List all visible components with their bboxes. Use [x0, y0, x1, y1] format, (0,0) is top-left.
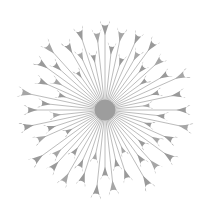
graph-leaf-node [49, 149, 61, 161]
graph-leaf-node [32, 136, 46, 146]
graph-edge [108, 75, 183, 108]
radial-network-canvas [0, 0, 211, 219]
graph-leaf-node [124, 169, 133, 183]
graph-leaf-node [154, 53, 167, 65]
graph-leaf-node [142, 101, 153, 108]
graph-leaf-node [150, 160, 163, 174]
graph-leaf-node [46, 162, 59, 176]
graph-edge [96, 114, 104, 194]
graph-leaf-node [148, 36, 161, 51]
graph-leaf-node [164, 153, 179, 166]
graph-leaf-node [33, 56, 48, 69]
graph-leaf-node [61, 39, 72, 54]
graph-leaf-node [37, 99, 50, 108]
graph-leaf-node [34, 75, 48, 85]
center-hub-layer [95, 100, 116, 121]
graph-leaf-node [100, 21, 110, 36]
graph-leaf-node [73, 25, 83, 40]
radial-network-figure [0, 0, 211, 219]
graph-leaf-node [24, 105, 38, 115]
graph-leaf-node [19, 123, 34, 133]
graph-leaf-node [49, 59, 61, 71]
graph-leaf-node [178, 124, 193, 134]
graph-leaf-node [156, 112, 169, 120]
graph-leaf-node [143, 176, 155, 192]
graph-leaf-node [108, 42, 116, 55]
graph-leaf-node [92, 28, 102, 42]
graph-leaf-node [57, 173, 69, 188]
graph-leaf-node [109, 180, 119, 195]
graph-leaf-node [17, 87, 32, 97]
graph-leaf-node [76, 172, 85, 187]
graph-leaf-node [73, 67, 82, 78]
graph-leaf-node [62, 129, 73, 137]
graph-leaf-node [164, 136, 178, 146]
graph-leaf-node [114, 158, 122, 171]
graph-leaf-node [134, 30, 144, 44]
graph-leaf-node [91, 184, 101, 199]
graph-leaf-node [89, 51, 97, 63]
center-hub-node [95, 100, 116, 121]
graph-leaf-node [118, 27, 128, 42]
graph-leaf-node [101, 167, 110, 180]
graph-leaf-node [159, 68, 172, 78]
graph-leaf-node [175, 68, 190, 78]
graph-leaf-node [121, 146, 129, 157]
graph-leaf-node [49, 112, 61, 120]
graph-leaf-node [28, 155, 43, 168]
graph-leaf-node [176, 105, 190, 115]
graph-leaf-node [171, 88, 186, 98]
graph-leaf-node [40, 39, 54, 54]
